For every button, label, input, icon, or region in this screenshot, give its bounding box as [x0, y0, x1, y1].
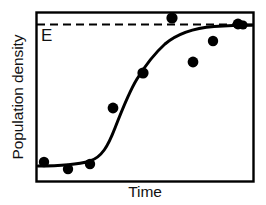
data-point — [208, 36, 218, 46]
data-point — [39, 157, 49, 167]
data-point — [238, 20, 247, 29]
data-point — [85, 159, 95, 169]
data-point — [108, 103, 119, 114]
x-axis-label: Time — [36, 183, 254, 201]
data-point-group — [39, 12, 248, 174]
data-point — [188, 57, 199, 68]
data-point — [137, 67, 148, 78]
data-point — [63, 164, 73, 174]
plot-frame — [37, 13, 254, 182]
carrying-capacity-annotation: E — [41, 27, 52, 44]
plot-area — [0, 0, 266, 205]
data-point — [166, 12, 177, 23]
logistic-growth-curve — [38, 25, 252, 166]
population-growth-figure: Population density E Time — [0, 0, 266, 205]
